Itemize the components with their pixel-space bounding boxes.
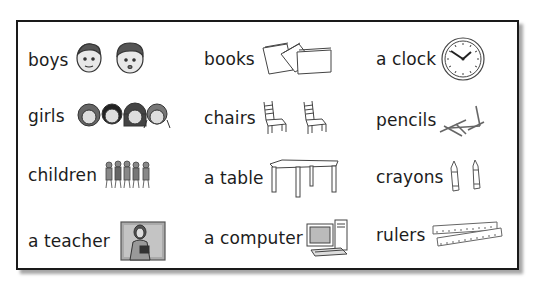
vocab-label: a table	[204, 168, 264, 188]
vocab-item-table: a table	[204, 158, 340, 198]
vocab-label: books	[204, 49, 255, 69]
vocabulary-card: boys girls	[16, 20, 519, 270]
clock-icon	[440, 36, 486, 82]
vocab-label: a computer	[204, 228, 303, 248]
teacher-icon	[120, 220, 166, 262]
rulers-icon	[431, 220, 503, 250]
vocab-label: rulers	[376, 225, 425, 245]
boys-icon	[73, 40, 149, 80]
table-icon	[268, 158, 340, 198]
girls-icon	[77, 100, 177, 132]
pencils-icon	[436, 100, 486, 140]
children-icon	[103, 160, 153, 190]
vocab-label: pencils	[376, 110, 436, 130]
vocab-item-clock: a clock	[376, 36, 486, 82]
vocab-item-computer: a computer	[204, 218, 357, 258]
crayons-icon	[448, 160, 484, 194]
vocab-item-teacher: a teacher	[28, 220, 166, 262]
computer-icon	[305, 218, 357, 258]
books-icon	[261, 40, 335, 78]
vocab-item-rulers: rulers	[376, 220, 503, 250]
vocab-label: a teacher	[28, 231, 110, 251]
vocab-item-children: children	[28, 160, 153, 190]
vocab-label: a clock	[376, 49, 436, 69]
vocab-item-pencils: pencils	[376, 100, 486, 140]
vocab-label: boys	[28, 50, 69, 70]
vocab-label: girls	[28, 106, 65, 126]
vocab-label: children	[28, 165, 97, 185]
vocab-item-crayons: crayons	[376, 160, 484, 194]
vocab-item-books: books	[204, 40, 335, 78]
vocab-label: crayons	[376, 167, 444, 187]
chairs-icon	[260, 100, 340, 136]
vocab-item-girls: girls	[28, 100, 177, 132]
vocab-item-boys: boys	[28, 40, 149, 80]
vocab-label: chairs	[204, 108, 256, 128]
vocab-item-chairs: chairs	[204, 100, 340, 136]
